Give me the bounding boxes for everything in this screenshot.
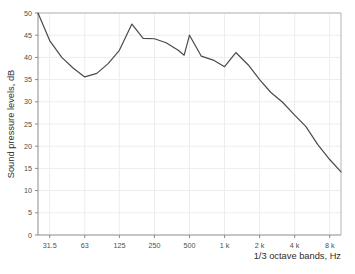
x-tick-label: 125 <box>113 241 125 250</box>
y-tick-label: 35 <box>24 75 32 84</box>
y-tick-label: 25 <box>24 120 32 129</box>
x-tick-label: 500 <box>184 241 196 250</box>
y-axis-title: Sound pressure levels, dB <box>6 70 16 179</box>
y-tick-label: 40 <box>24 53 32 62</box>
x-tick-label: 31.5 <box>43 241 57 250</box>
x-axis-tick-labels: 31.5631252505001 k2 k4 k8 k <box>43 241 335 250</box>
y-tick-label: 45 <box>24 31 32 40</box>
y-tick-label: 50 <box>24 9 32 18</box>
y-tick-label: 20 <box>24 142 32 151</box>
y-tick-label: 30 <box>24 97 32 106</box>
x-tick-label: 63 <box>81 241 89 250</box>
y-tick-label: 10 <box>24 186 32 195</box>
sound-pressure-level-chart: 05101520253035404550 31.5631252505001 k2… <box>0 0 355 274</box>
y-tick-label: 15 <box>24 164 32 173</box>
x-tick-label: 2 k <box>255 241 265 250</box>
x-axis-title: 1/3 octave bands, Hz <box>254 251 342 261</box>
x-tick-label: 8 k <box>325 241 335 250</box>
chart-figure: 05101520253035404550 31.5631252505001 k2… <box>0 0 355 274</box>
x-tick-label: 1 k <box>220 241 230 250</box>
y-tick-label: 5 <box>28 208 32 217</box>
y-tick-label: 0 <box>28 231 32 240</box>
x-tick-label: 250 <box>148 241 160 250</box>
chart-background <box>0 0 355 274</box>
x-tick-label: 4 k <box>290 241 300 250</box>
